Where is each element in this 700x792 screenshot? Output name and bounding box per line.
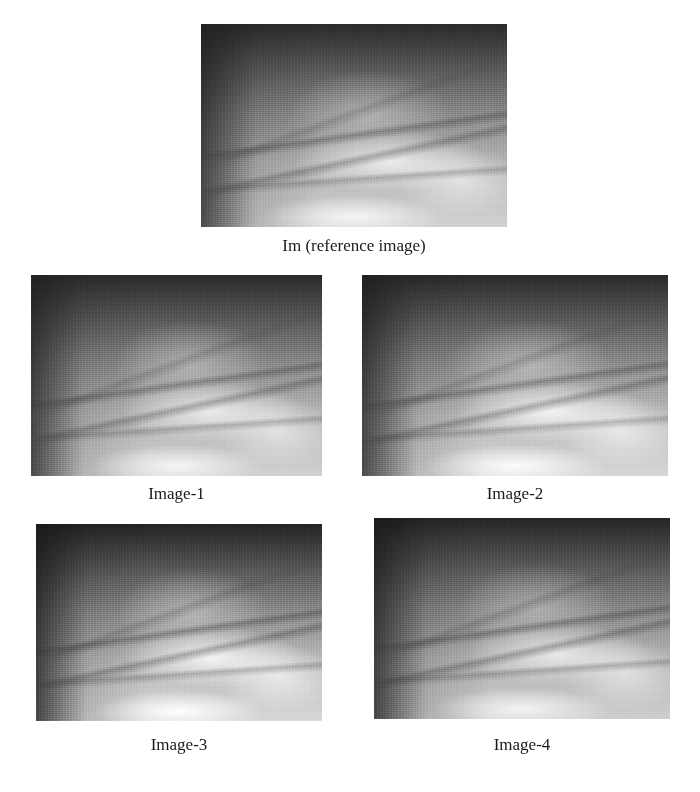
image-4 <box>374 518 670 719</box>
image-1 <box>31 275 322 476</box>
vein-image-content <box>36 524 322 721</box>
image-1-caption: Image-1 <box>31 484 322 504</box>
vein-image-content <box>374 518 670 719</box>
vein-image-content <box>362 275 668 476</box>
vein-image-content <box>201 24 507 227</box>
vein-image-content <box>31 275 322 476</box>
image-2 <box>362 275 668 476</box>
image-2-caption: Image-2 <box>362 484 668 504</box>
reference-image-caption: Im (reference image) <box>201 236 507 256</box>
image-4-caption: Image-4 <box>374 735 670 755</box>
image-3 <box>36 524 322 721</box>
reference-image <box>201 24 507 227</box>
image-3-caption: Image-3 <box>36 735 322 755</box>
